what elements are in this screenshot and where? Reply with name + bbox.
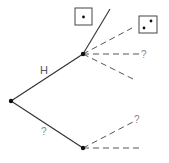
probability-tree-diagram: H ? ? ? xyxy=(0,0,169,163)
node-root xyxy=(9,99,13,103)
edge-root-upper xyxy=(11,54,83,101)
edge-label-lower: ? xyxy=(41,126,47,137)
edge-root-lower xyxy=(11,101,83,148)
node-lower xyxy=(81,146,85,150)
branch-label-lower-top: ? xyxy=(134,114,140,125)
edge-label-h: H xyxy=(40,64,48,76)
edge-upper-dashed-3 xyxy=(83,54,133,79)
edge-lower-dashed-1 xyxy=(83,122,133,148)
node-upper xyxy=(81,52,85,56)
die-two-icon xyxy=(139,16,157,33)
die-one-icon xyxy=(75,8,92,25)
branch-label-upper-mid: ? xyxy=(141,49,147,60)
